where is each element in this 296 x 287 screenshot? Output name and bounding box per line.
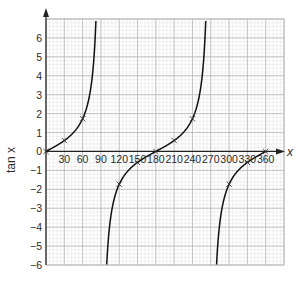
x-tick-label: 90 xyxy=(95,153,107,165)
y-tick-label: 0 xyxy=(36,145,42,157)
y-tick-label: −3 xyxy=(30,202,42,214)
y-tick-label: −4 xyxy=(30,221,42,233)
y-tick-label: −1 xyxy=(30,164,42,176)
x-tick-label: 60 xyxy=(77,153,89,165)
x-tick-label: 330 xyxy=(239,153,257,165)
y-tick-label: 2 xyxy=(36,108,42,120)
y-axis-arrow-icon xyxy=(43,8,49,17)
x-tick-label: 30 xyxy=(58,153,70,165)
x-axis-label: x xyxy=(286,145,294,159)
minor-grid xyxy=(46,19,284,265)
x-tick-label: 270 xyxy=(202,153,220,165)
x-tick-label: 360 xyxy=(257,153,275,165)
y-tick-label: 3 xyxy=(36,89,42,101)
y-tick-label: −6 xyxy=(30,259,42,271)
tan-chart: 306090120150180210240270300330360−6−5−4−… xyxy=(0,0,296,287)
grid-border xyxy=(46,19,284,265)
y-tick-label: −5 xyxy=(30,240,42,252)
x-tick-label: 240 xyxy=(184,153,202,165)
x-tick-label: 300 xyxy=(220,153,238,165)
y-tick-label: −2 xyxy=(30,183,42,195)
x-tick-label: 150 xyxy=(129,153,147,165)
x-tick-label: 180 xyxy=(147,153,165,165)
y-axis-label: tan x xyxy=(4,147,18,173)
y-tick-label: 4 xyxy=(36,70,42,82)
y-tick-label: 5 xyxy=(36,51,42,63)
x-tick-label: 210 xyxy=(165,153,183,165)
x-tick-label: 120 xyxy=(110,153,128,165)
y-tick-label: 1 xyxy=(36,127,42,139)
major-grid xyxy=(46,19,284,265)
y-tick-label: 6 xyxy=(36,32,42,44)
